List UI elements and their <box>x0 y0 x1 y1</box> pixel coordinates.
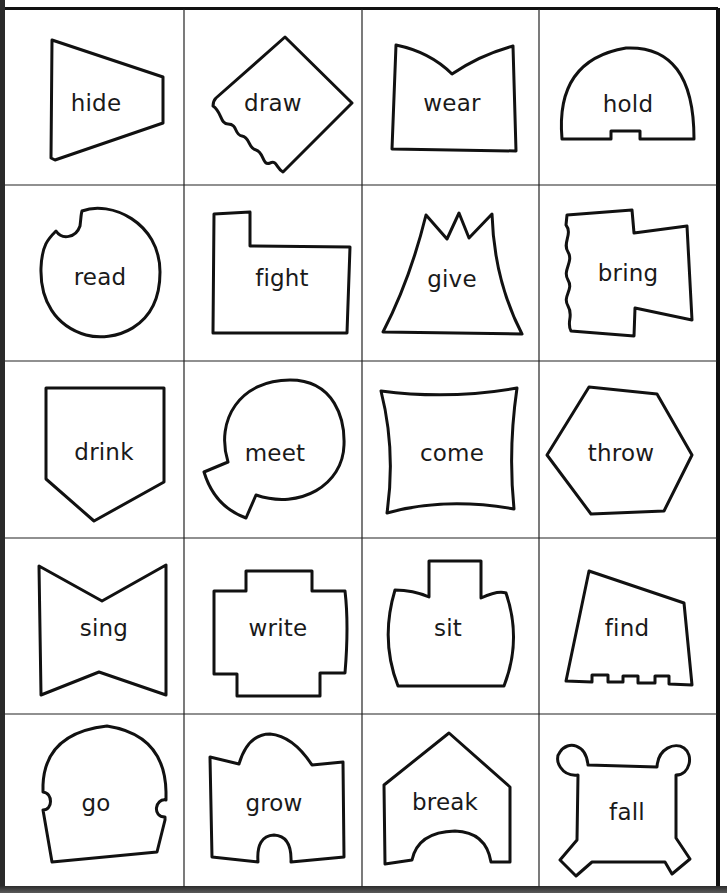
card-label-drink: drink <box>74 439 133 465</box>
card-label-come: come <box>420 440 484 466</box>
card-label-read: read <box>74 264 127 290</box>
card-label-sit: sit <box>434 615 462 641</box>
card-label-draw: draw <box>244 90 302 116</box>
card-label-grow: grow <box>245 790 302 816</box>
card-label-give: give <box>427 266 477 292</box>
card-label-hide: hide <box>71 90 122 116</box>
card-label-fight: fight <box>255 265 309 291</box>
card-label-wear: wear <box>423 90 480 116</box>
card-label-throw: throw <box>588 440 654 466</box>
card-label-bring: bring <box>598 260 659 286</box>
card-label-hold: hold <box>603 91 653 117</box>
card-label-find: find <box>605 615 649 641</box>
card-label-break: break <box>412 789 478 815</box>
card-label-write: write <box>249 615 308 641</box>
card-label-go: go <box>81 790 110 816</box>
card-label-fall: fall <box>609 799 645 825</box>
card-label-sing: sing <box>80 615 128 641</box>
card-label-meet: meet <box>245 440 306 466</box>
